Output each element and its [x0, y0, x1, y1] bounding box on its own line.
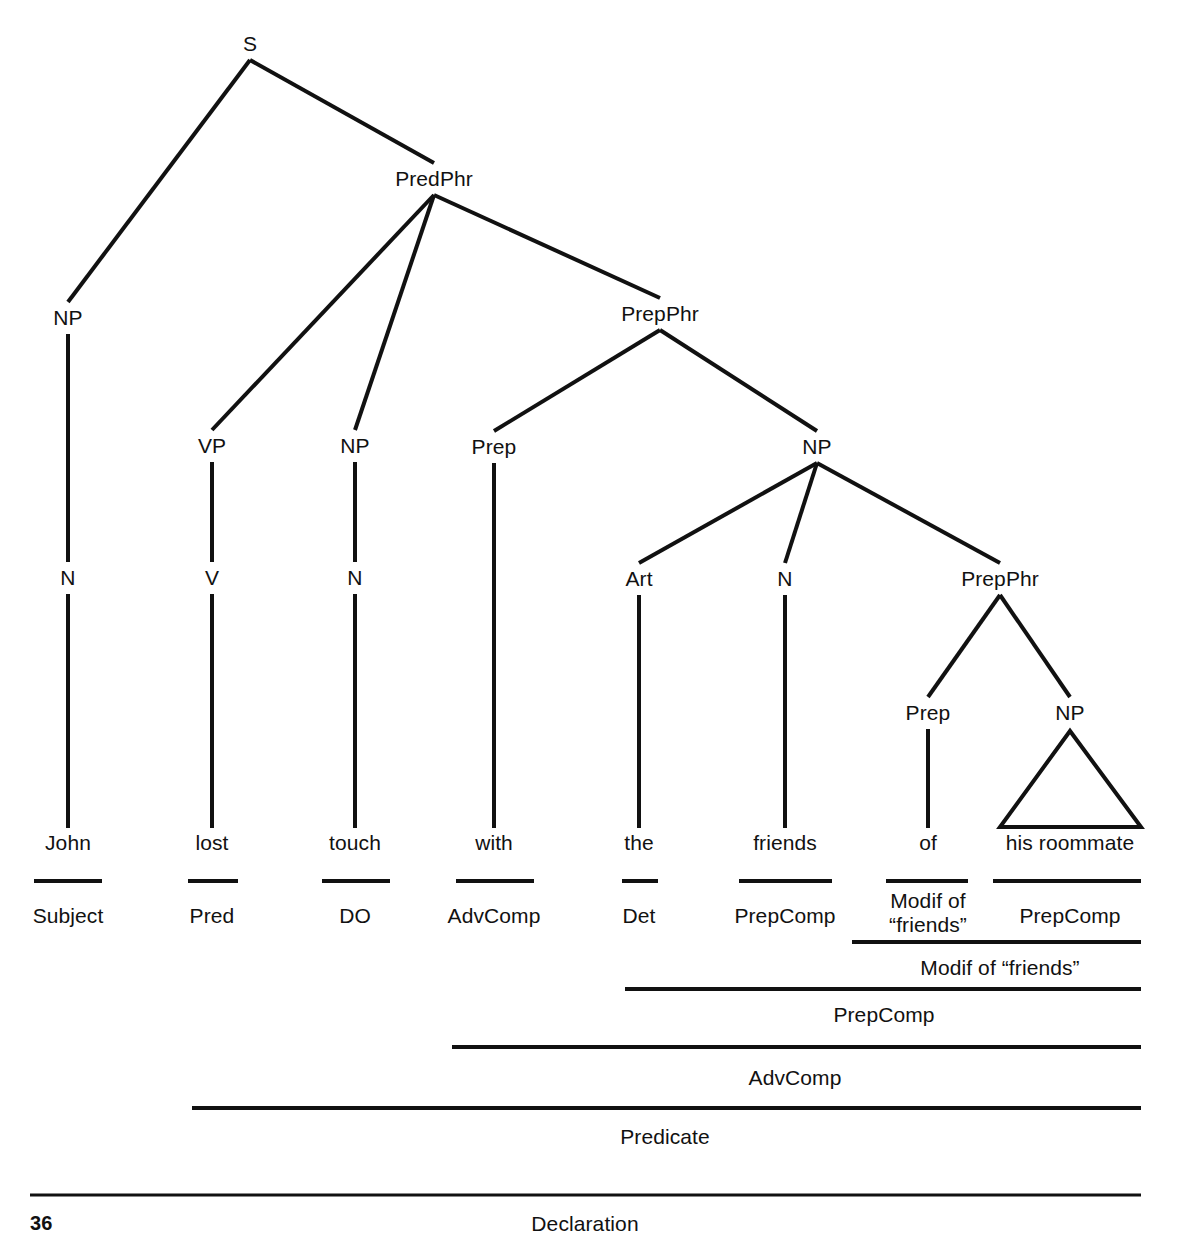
- word-the: the: [624, 832, 654, 855]
- node-np-prepcomp: NP: [802, 436, 831, 459]
- word-of: of: [919, 832, 937, 855]
- word-lost: lost: [195, 832, 228, 855]
- node-predphr: PredPhr: [395, 168, 473, 191]
- function-det: Det: [623, 905, 656, 928]
- function-prepcomp-friends: PrepComp: [734, 905, 835, 928]
- function-subject: Subject: [33, 905, 104, 928]
- edge-prepphr1-prep1: [494, 330, 660, 431]
- edge-prepphr1-np3: [660, 330, 817, 431]
- word-with: with: [475, 832, 513, 855]
- node-prepphr-outer: PrepPhr: [621, 303, 699, 326]
- edge-predphr-np2: [355, 195, 434, 430]
- function-advcomp: AdvComp: [448, 905, 541, 928]
- edge-np3-prepphr2: [817, 463, 1000, 563]
- word-john: John: [45, 832, 91, 855]
- node-prepphr-inner: PrepPhr: [961, 568, 1039, 591]
- node-s: S: [243, 33, 257, 56]
- edge-s-np1: [68, 60, 250, 302]
- node-prep-with: Prep: [472, 436, 517, 459]
- function-prepcomp-roommate: PrepComp: [1019, 905, 1120, 928]
- node-np-subject: NP: [53, 307, 82, 330]
- bracket-label-modif-friends: Modif of “friends”: [920, 957, 1079, 980]
- node-vp: VP: [198, 435, 226, 458]
- node-np-object: NP: [340, 435, 369, 458]
- tree-line-art: [0, 0, 1181, 1259]
- node-n-john: N: [60, 567, 75, 590]
- node-v-lost: V: [205, 567, 219, 590]
- node-np-roommate: NP: [1055, 702, 1084, 725]
- edge-predphr-prepphr1: [434, 195, 660, 298]
- function-do: DO: [339, 905, 371, 928]
- edge-predphr-vp: [212, 195, 434, 430]
- bracket-label-predicate: Predicate: [620, 1126, 710, 1149]
- function-modif-of-friends: Modif of“friends”: [889, 889, 967, 936]
- node-prep-of: Prep: [906, 702, 951, 725]
- edge-prepphr2-prep2: [928, 595, 1000, 697]
- function-modif-line2: “friends”: [889, 913, 967, 936]
- word-his-roommate: his roommate: [1006, 832, 1134, 855]
- np-triangle-his-roommate: [1000, 731, 1141, 827]
- bracket-label-advcomp: AdvComp: [749, 1067, 842, 1090]
- node-art-the: Art: [625, 568, 652, 591]
- edge-s-predphr: [250, 60, 434, 163]
- page-number: 36: [30, 1213, 52, 1235]
- word-touch: touch: [329, 832, 381, 855]
- node-n-touch: N: [347, 567, 362, 590]
- bracket-label-declaration: Declaration: [531, 1213, 638, 1236]
- syntax-tree-figure: S NP PredPhr VP NP PrepPhr Prep NP N V N…: [0, 0, 1181, 1259]
- word-friends: friends: [753, 832, 817, 855]
- node-n-friends: N: [777, 568, 792, 591]
- function-modif-line1: Modif of: [890, 889, 966, 912]
- bracket-label-prepcomp: PrepComp: [833, 1004, 934, 1027]
- function-pred: Pred: [190, 905, 235, 928]
- edge-prepphr2-np4: [1000, 595, 1070, 697]
